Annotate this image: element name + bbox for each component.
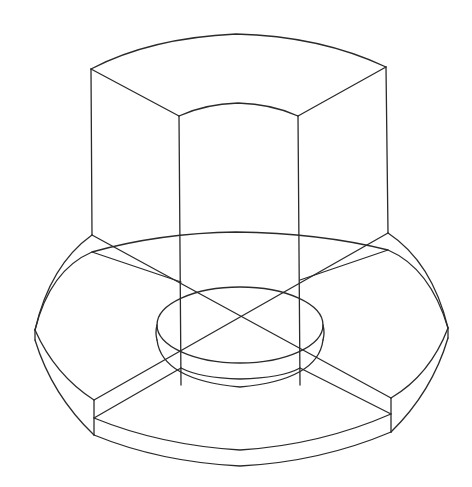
quadrant-dividers [92, 233, 391, 418]
drawing-canvas: Isometric wireframe: cylindrical column … [0, 0, 472, 487]
wireframe-drawing [0, 0, 472, 487]
flange-top-rim [35, 232, 448, 450]
flange-bottom-rim [35, 328, 448, 466]
column-walls [91, 67, 388, 385]
column-top-face [91, 34, 386, 116]
